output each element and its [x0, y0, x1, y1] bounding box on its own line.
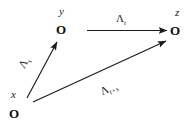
- lambda-glyph-t: Λ: [116, 12, 124, 24]
- node-marker-y: O: [56, 23, 66, 36]
- node-marker-x: O: [9, 107, 19, 120]
- commutative-diagram: y O z O x O Λs Λt Λt+s: [0, 0, 196, 129]
- lambda-subscript-t: t: [124, 19, 126, 27]
- arrow-x-to-y: [27, 42, 57, 98]
- node-label-z: z: [175, 7, 179, 18]
- node-label-y: y: [59, 6, 64, 17]
- edge-label-y-to-z: Λt: [116, 13, 126, 24]
- arrow-layer: [0, 0, 196, 129]
- node-label-x: x: [11, 89, 16, 100]
- node-marker-z: O: [170, 24, 180, 37]
